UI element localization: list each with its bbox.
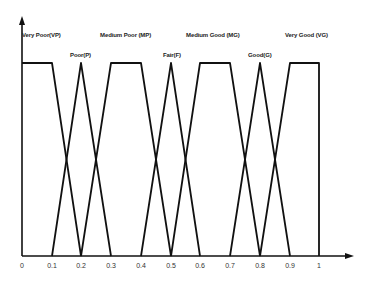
curve-very-good xyxy=(260,63,319,256)
x-tick: 0.9 xyxy=(285,262,295,269)
label-fair: Fair(F) xyxy=(163,52,181,58)
x-tick: 0.7 xyxy=(225,262,235,269)
label-very-poor: Very Poor(VP) xyxy=(22,32,61,38)
x-tick: 0.4 xyxy=(136,262,146,269)
x-tick: 0.3 xyxy=(106,262,116,269)
curve-fair xyxy=(141,63,200,256)
x-tick: 0.8 xyxy=(255,262,265,269)
x-tick: 0.2 xyxy=(76,262,86,269)
label-medium-good: Medium Good (MG) xyxy=(186,32,240,38)
x-tick: 1 xyxy=(317,262,321,269)
label-poor: Poor(P) xyxy=(70,52,91,58)
curve-good xyxy=(230,63,290,256)
label-very-good: Very Good (VG) xyxy=(285,32,328,38)
x-tick: 0.6 xyxy=(195,262,205,269)
curve-medium-good xyxy=(171,63,260,256)
x-tick: 0.5 xyxy=(166,262,176,269)
curve-very-poor xyxy=(22,63,81,256)
x-tick: 0 xyxy=(20,262,24,269)
label-medium-poor: Medium Poor (MP) xyxy=(100,32,151,38)
x-tick: 0.1 xyxy=(47,262,57,269)
x-axis-arrow-icon xyxy=(345,253,354,259)
curve-poor xyxy=(52,63,111,256)
y-axis-arrow-icon xyxy=(19,16,25,25)
membership-function-chart xyxy=(0,0,371,286)
label-good: Good(G) xyxy=(248,52,272,58)
curve-medium-poor xyxy=(81,63,171,256)
